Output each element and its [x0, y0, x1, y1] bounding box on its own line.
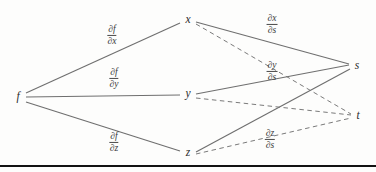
edge-label-df-dy: ∂f ∂y [109, 67, 118, 89]
edge-label-df-dy-numerator: ∂f [109, 67, 118, 79]
edge-label-dy-ds: ∂y ∂s [267, 60, 278, 82]
edge-f-to-y [26, 95, 180, 97]
edge-label-df-dx-numerator: ∂f [107, 24, 116, 36]
node-s-label: s [355, 59, 359, 71]
node-z-label: z [186, 146, 190, 158]
edge-label-dz-ds-numerator: ∂z [265, 128, 275, 140]
edge-label-dz-ds: ∂z ∂s [265, 128, 275, 150]
node-z: z [186, 147, 190, 159]
edge-label-dx-ds-denominator: ∂s [267, 25, 278, 36]
node-t-label: t [356, 109, 359, 121]
edge-label-dz-ds-denominator: ∂s [265, 140, 275, 151]
edge-label-df-dy-denominator: ∂y [109, 79, 118, 90]
edge-label-dy-ds-numerator: ∂y [267, 60, 278, 72]
computational-graph-figure: f x y z s t ∂f ∂x ∂f ∂y ∂f ∂z ∂x ∂s ∂y ∂… [0, 0, 376, 172]
edge-f-to-x [26, 23, 180, 93]
node-y-label: y [185, 87, 190, 99]
edge-label-dx-ds-numerator: ∂x [267, 13, 278, 25]
edge-label-df-dx: ∂f ∂x [107, 24, 116, 46]
node-x: x [185, 14, 190, 26]
node-s: s [355, 60, 359, 72]
node-x-label: x [185, 13, 190, 25]
page-divider-rule [0, 165, 376, 167]
edge-label-df-dz-numerator: ∂f [109, 131, 118, 143]
edge-label-dy-ds-denominator: ∂s [267, 72, 278, 83]
edge-label-df-dx-denominator: ∂x [107, 36, 116, 47]
edge-f-to-z [26, 102, 180, 151]
node-y: y [185, 88, 190, 100]
node-t: t [356, 110, 359, 122]
edge-group-from-f [26, 23, 180, 151]
edge-label-df-dz: ∂f ∂z [109, 131, 118, 153]
node-f: f [16, 91, 19, 103]
edge-label-df-dz-denominator: ∂z [109, 143, 118, 154]
node-f-label: f [16, 90, 19, 102]
edge-label-dx-ds: ∂x ∂s [267, 13, 278, 35]
